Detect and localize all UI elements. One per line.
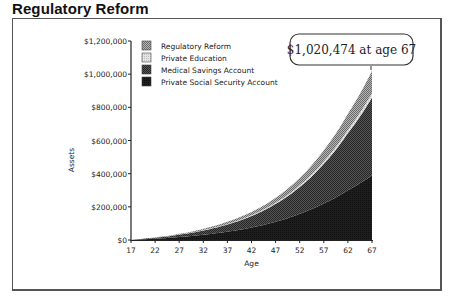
legend-swatch xyxy=(142,53,151,62)
x-tick-label: 37 xyxy=(223,246,233,255)
legend-swatch xyxy=(142,77,151,86)
y-tick-label: $1,000,000 xyxy=(84,70,127,79)
stacked-area-chart: $0$200,000$400,000$600,000$800,000$1,000… xyxy=(0,0,456,299)
legend-swatch xyxy=(142,41,151,50)
value-callout: $1,020,474 at age 67 xyxy=(287,34,416,70)
legend-label: Private Social Security Account xyxy=(161,78,278,87)
legend: Regulatory ReformPrivate EducationMedica… xyxy=(142,41,278,87)
x-tick-label: 52 xyxy=(295,246,305,255)
y-tick-label: $600,000 xyxy=(91,137,127,146)
legend-label: Medical Savings Account xyxy=(161,66,254,75)
y-tick-label: $200,000 xyxy=(91,203,127,212)
y-tick-label: $400,000 xyxy=(91,170,127,179)
x-tick-label: 17 xyxy=(126,246,136,255)
area-series-group xyxy=(131,71,372,240)
x-tick-label: 47 xyxy=(271,246,281,255)
callout-label: $1,020,474 at age 67 xyxy=(287,43,416,57)
x-tick-label: 62 xyxy=(343,246,353,255)
y-tick-label: $0 xyxy=(117,236,127,245)
y-tick-label: $800,000 xyxy=(91,103,127,112)
x-tick-label: 57 xyxy=(319,246,329,255)
x-tick-label: 67 xyxy=(367,246,377,255)
legend-label: Private Education xyxy=(161,54,227,63)
legend-swatch xyxy=(142,65,151,74)
x-tick-label: 27 xyxy=(174,246,184,255)
x-tick-label: 42 xyxy=(247,246,257,255)
y-axis-label: Assets xyxy=(67,148,76,173)
y-tick-label: $1,200,000 xyxy=(84,37,127,46)
x-tick-label: 22 xyxy=(150,246,160,255)
legend-label: Regulatory Reform xyxy=(161,42,231,51)
x-axis-label: Age xyxy=(244,259,259,268)
x-tick-label: 32 xyxy=(199,246,209,255)
